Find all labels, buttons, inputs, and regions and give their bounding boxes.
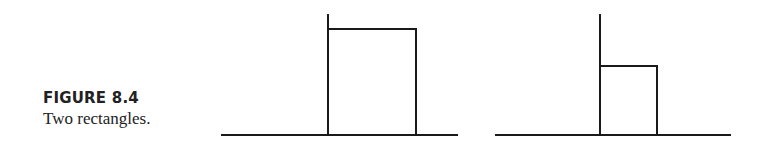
figure-drawing (0, 0, 762, 154)
left-rectangle-diagram (221, 14, 458, 135)
rectangle (600, 66, 657, 135)
right-rectangle-diagram (495, 14, 731, 135)
rectangle (328, 29, 416, 135)
